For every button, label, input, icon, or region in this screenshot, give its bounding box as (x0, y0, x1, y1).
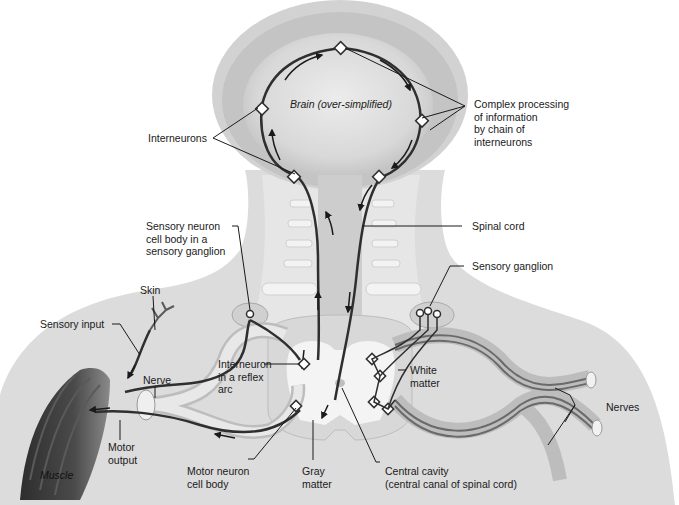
label-spinal-cord: Spinal cord (472, 220, 525, 233)
label-sensory-ganglion: Sensory ganglion (472, 260, 553, 273)
label-nerve: Nerve (143, 374, 171, 387)
label-complex-processing: Complex processing of information by cha… (474, 98, 569, 148)
label-interneurons: Interneurons (148, 132, 207, 145)
label-gray-matter: Gray matter (302, 465, 332, 490)
spinal-cord-column (318, 175, 362, 330)
label-sensory-input: Sensory input (40, 318, 104, 331)
label-motor-neuron-cell-body: Motor neuron cell body (187, 465, 249, 490)
label-nerves: Nerves (606, 401, 639, 414)
nervous-system-diagram: Brain (over-simplified) Interneurons Com… (0, 0, 679, 505)
label-sensory-neuron-cell-body: Sensory neuron cell body in a sensory ga… (146, 220, 225, 258)
label-skin: Skin (140, 284, 160, 297)
label-central-cavity: Central cavity (central canal of spinal … (385, 465, 517, 490)
anatomy-illustration (0, 0, 679, 505)
label-muscle: Muscle (40, 469, 73, 482)
label-motor-output: Motor output (108, 441, 137, 466)
label-interneuron-reflex-arc: Interneuron in a reflex arc (218, 358, 272, 396)
label-brain: Brain (over-simplified) (290, 98, 392, 111)
brain-region (212, 0, 468, 190)
label-white-matter: White matter (410, 364, 440, 389)
